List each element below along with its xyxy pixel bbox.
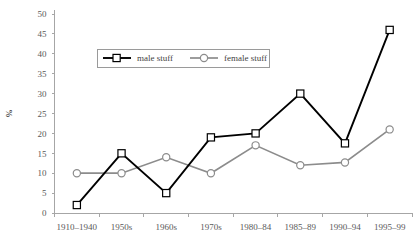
data-point-marker [252, 142, 259, 149]
x-tick-label: 1990–94 [329, 222, 361, 232]
data-point-marker [386, 26, 393, 33]
x-tick-label: 1910–1940 [57, 222, 98, 232]
y-tick-label: 45 [38, 29, 48, 39]
data-point-marker [118, 170, 125, 177]
y-tick-label: 30 [38, 89, 48, 99]
data-point-marker [73, 201, 80, 208]
x-tick-label: 1960s [155, 222, 177, 232]
y-tick-label: 0 [42, 208, 47, 218]
legend-male-label: male stuff [137, 53, 173, 63]
y-tick-label: 5 [42, 188, 47, 198]
y-tick-label: 20 [38, 129, 48, 139]
data-point-marker [118, 150, 125, 157]
legend-male-marker [113, 54, 120, 61]
y-axis-tick-labels: 05101520253035404550 [38, 9, 48, 218]
x-tick-label: 1970s [200, 222, 222, 232]
legend-female-marker [200, 54, 207, 61]
x-tick-label: 1950s [111, 222, 133, 232]
chart-canvas: 05101520253035404550 1910–19401950s1960s… [0, 0, 419, 244]
y-tick-label: 25 [38, 109, 48, 119]
y-axis-title: % [4, 109, 14, 118]
y-tick-label: 40 [38, 49, 48, 59]
data-point-marker [252, 130, 259, 137]
data-point-marker [297, 90, 304, 97]
x-tick-label: 1980–84 [240, 222, 272, 232]
legend-female-label: female stuff [224, 53, 267, 63]
y-tick-label: 50 [38, 9, 48, 19]
data-point-marker [207, 134, 214, 141]
data-point-marker [386, 126, 393, 133]
data-point-marker [341, 159, 348, 166]
y-tick-label: 10 [38, 168, 48, 178]
data-point-marker [207, 170, 214, 177]
data-point-marker [163, 154, 170, 161]
x-tick-label: 1995–99 [374, 222, 406, 232]
data-point-marker [73, 170, 80, 177]
data-point-marker [341, 140, 348, 147]
x-axis-tick-marks [55, 213, 413, 217]
x-axis-tick-labels: 1910–19401950s1960s1970s1980–841985–8919… [57, 222, 406, 232]
line-chart: 05101520253035404550 1910–19401950s1960s… [0, 0, 419, 244]
y-tick-label: 15 [38, 149, 48, 159]
legend-item-male[interactable]: male stuff [103, 53, 173, 63]
data-point-marker [163, 190, 170, 197]
data-point-marker [297, 162, 304, 169]
chart-legend: male stuff female stuff [97, 49, 269, 67]
x-tick-label: 1985–89 [285, 222, 317, 232]
y-tick-label: 35 [38, 69, 48, 79]
